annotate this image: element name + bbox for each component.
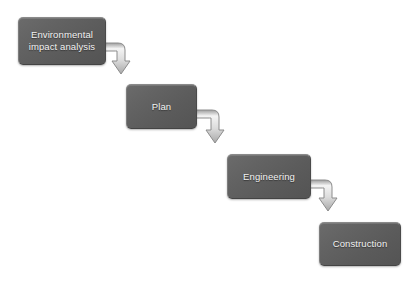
node-construction[interactable]: Construction — [319, 222, 401, 266]
connector-engineering-to-construction — [309, 180, 337, 211]
node-environmental-impact-analysis[interactable]: Environmental impact analysis — [18, 17, 106, 65]
node-label: Construction — [329, 238, 392, 250]
node-plan[interactable]: Plan — [126, 84, 197, 129]
node-engineering[interactable]: Engineering — [227, 154, 311, 199]
connector-eia-to-plan — [104, 43, 130, 74]
diagram-canvas: Environmental impact analysis Plan Engin… — [0, 0, 418, 281]
node-label: Engineering — [239, 171, 299, 183]
connector-plan-to-engineering — [195, 110, 224, 143]
node-label: Environmental impact analysis — [25, 29, 99, 53]
node-label: Plan — [148, 101, 175, 113]
